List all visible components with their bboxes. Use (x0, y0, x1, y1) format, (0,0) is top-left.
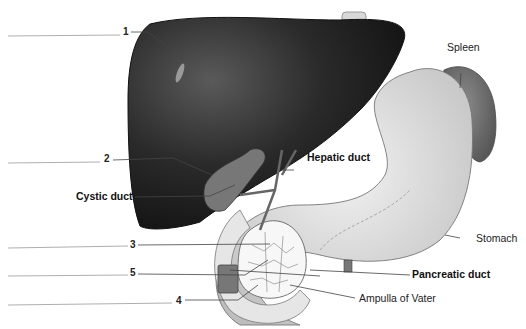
label-spleen: Spleen (447, 42, 480, 53)
label-number-2: 2 (104, 154, 110, 164)
label-number-5: 5 (130, 268, 136, 278)
label-number-4: 4 (176, 296, 182, 306)
label-cystic-duct: Cystic duct (76, 191, 133, 202)
label-pancreatic-duct: Pancreatic duct (412, 269, 490, 280)
label-hepatic-duct: Hepatic duct (307, 152, 370, 163)
pancreas-head (238, 221, 306, 299)
label-number-1: 1 (123, 27, 129, 37)
label-stomach: Stomach (476, 233, 517, 244)
label-number-3: 3 (130, 240, 136, 250)
duodenum-opening (218, 265, 238, 293)
label-ampulla-of-vater: Ampulla of Vater (359, 293, 436, 304)
